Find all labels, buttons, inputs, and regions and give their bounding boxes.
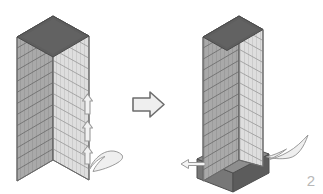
diagram-canvas xyxy=(0,0,323,194)
building-comparison-diagram xyxy=(0,0,323,194)
transition-arrow xyxy=(133,92,164,117)
right-building xyxy=(197,16,269,192)
figure-number-label: 2 xyxy=(307,173,315,188)
curved-load-arrow-left-icon xyxy=(90,151,123,172)
curved-load-arrow-right-icon xyxy=(267,135,309,160)
left-building xyxy=(17,16,89,181)
left-annotation-arrows xyxy=(83,94,123,172)
transition-arrow-icon xyxy=(133,92,164,117)
